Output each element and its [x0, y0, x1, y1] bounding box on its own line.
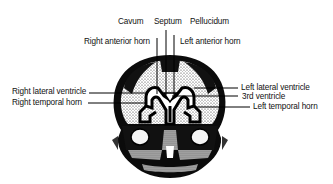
label-left-anterior-horn: Left anterior horn	[180, 38, 241, 46]
label-cavum: Cavum	[118, 18, 143, 26]
right-orbit	[131, 129, 149, 145]
label-septum: Septum	[154, 18, 182, 26]
label-left-lateral-ventricle: Left lateral ventricle	[241, 84, 310, 92]
label-pellucidum: Pellucidum	[190, 18, 229, 26]
label-right-anterior-horn: Right anterior horn	[84, 38, 150, 46]
left-orbit	[191, 129, 209, 145]
label-right-temporal-horn: Right temporal horn	[12, 99, 82, 107]
label-third-ventricle: 3rd ventricle	[242, 93, 285, 101]
ventricle-system	[140, 87, 200, 124]
label-left-temporal-horn: Left temporal horn	[253, 103, 318, 111]
label-right-lateral-ventricle: Right lateral ventricle	[12, 88, 86, 96]
